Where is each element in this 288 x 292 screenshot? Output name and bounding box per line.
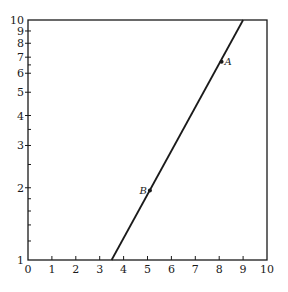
x-tick-label: 1	[48, 263, 55, 276]
x-tick-label: 7	[192, 263, 199, 276]
x-tick-label: 4	[120, 263, 127, 276]
y-tick-label: 6	[17, 67, 24, 80]
point-label-b: B	[139, 185, 147, 196]
point-marker-b	[148, 188, 152, 192]
series-line	[112, 20, 244, 260]
x-tick-label: 2	[72, 263, 79, 276]
x-tick-label: 0	[25, 263, 32, 276]
point-marker-a	[220, 60, 224, 64]
x-tick-label: 8	[216, 263, 223, 276]
y-tick-label: 4	[17, 110, 24, 123]
x-tick-label: 6	[168, 263, 175, 276]
data-line	[112, 20, 244, 260]
y-tick-label: 5	[17, 86, 24, 99]
x-tick-label: 9	[240, 263, 247, 276]
point-label-a: A	[224, 56, 232, 67]
y-tick-label: 8	[17, 37, 24, 50]
y-tick-label: 10	[10, 14, 24, 27]
semilog-chart: 012345678910 12345678910 AB	[0, 0, 288, 292]
y-tick-label: 1	[17, 254, 24, 267]
x-tick-label: 3	[96, 263, 103, 276]
y-tick-label: 7	[17, 51, 24, 64]
x-tick-label: 5	[144, 263, 151, 276]
x-tick-label: 10	[260, 263, 274, 276]
y-tick-label: 2	[17, 182, 24, 195]
y-tick-label: 3	[17, 139, 24, 152]
x-axis-ticks: 012345678910	[25, 256, 275, 276]
